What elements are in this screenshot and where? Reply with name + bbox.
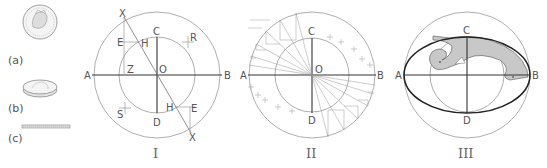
label-H-upper: H bbox=[141, 38, 149, 49]
numeral-I: I bbox=[153, 146, 158, 161]
diagram-II: A B C D O II bbox=[240, 12, 384, 161]
coin-edge-on bbox=[22, 125, 70, 128]
label-C: C bbox=[308, 26, 315, 37]
label-Z: Z bbox=[127, 64, 134, 75]
diagram-I: A B C D O Z E H R S H E X X I bbox=[84, 8, 231, 161]
label-B: B bbox=[532, 70, 539, 81]
ellipse-construction-figure: (a) (b) (c) A B C D O Z E H bbox=[0, 0, 547, 168]
label-E-lower: E bbox=[191, 103, 197, 114]
label-A: A bbox=[240, 70, 247, 81]
label-A: A bbox=[395, 70, 402, 81]
label-C: C bbox=[463, 25, 470, 36]
label-B: B bbox=[224, 70, 231, 81]
label-O: O bbox=[159, 64, 167, 75]
label-O: O bbox=[315, 64, 323, 75]
numeral-II: II bbox=[306, 146, 316, 161]
label-H-lower: H bbox=[166, 102, 174, 113]
label-C: C bbox=[153, 26, 160, 37]
label-X-lower: X bbox=[189, 132, 196, 143]
label-X-upper: X bbox=[119, 8, 126, 19]
coin-label-a: (a) bbox=[8, 54, 23, 67]
coin-tilted bbox=[23, 80, 57, 97]
label-A: A bbox=[84, 70, 91, 81]
numeral-III: III bbox=[458, 146, 473, 161]
coin-face-on bbox=[23, 5, 57, 39]
french-curve bbox=[429, 36, 528, 80]
label-E-upper: E bbox=[117, 37, 123, 48]
coin-label-c: (c) bbox=[8, 132, 23, 145]
coin-label-b: (b) bbox=[8, 102, 24, 115]
label-R: R bbox=[190, 32, 197, 43]
diagram-III: A B C D III bbox=[395, 12, 539, 161]
label-B: B bbox=[377, 70, 384, 81]
label-D: D bbox=[153, 117, 161, 128]
label-D: D bbox=[463, 115, 471, 126]
label-D: D bbox=[308, 115, 316, 126]
label-S: S bbox=[117, 109, 123, 120]
